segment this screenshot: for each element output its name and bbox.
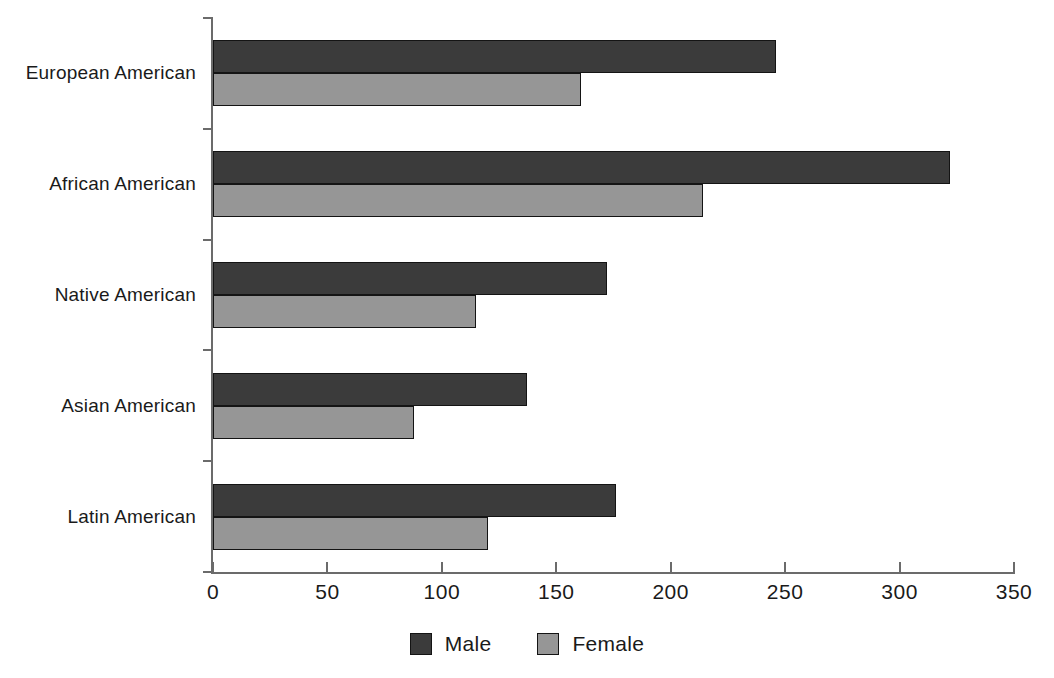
legend-label: Male xyxy=(445,632,492,656)
female-swatch-icon xyxy=(537,633,559,655)
y-axis-tick xyxy=(203,349,213,351)
bar-chart: 050100150200250300350 European AmericanA… xyxy=(0,0,1054,678)
x-axis-tick-label: 0 xyxy=(207,580,219,604)
legend-label: Female xyxy=(572,632,644,656)
y-axis-tick xyxy=(203,460,213,462)
bar-male-european-american xyxy=(213,40,776,73)
bar-male-african-american xyxy=(213,151,950,184)
x-axis-tick-label: 300 xyxy=(881,580,918,604)
chart-legend: MaleFemale xyxy=(0,632,1054,656)
plot-area xyxy=(213,18,1014,572)
legend-item-male: Male xyxy=(410,632,492,656)
x-axis-tick-label: 200 xyxy=(652,580,689,604)
y-axis-category-label: African American xyxy=(49,173,196,195)
x-axis-tick-label: 350 xyxy=(996,580,1033,604)
x-axis-tick-label: 250 xyxy=(767,580,804,604)
bar-female-asian-american xyxy=(213,406,414,439)
bar-female-latin-american xyxy=(213,517,488,550)
y-axis-category-labels: European AmericanAfrican AmericanNative … xyxy=(0,0,196,678)
male-swatch-icon xyxy=(410,633,432,655)
bar-male-latin-american xyxy=(213,484,616,517)
y-axis-category-label: Asian American xyxy=(61,395,196,417)
x-axis-tick-label: 100 xyxy=(424,580,461,604)
y-axis-category-label: European American xyxy=(26,62,196,84)
bar-female-european-american xyxy=(213,73,581,106)
bar-male-asian-american xyxy=(213,373,527,406)
y-axis-category-label: Native American xyxy=(55,284,196,306)
bar-female-native-american xyxy=(213,295,476,328)
y-axis-category-label: Latin American xyxy=(68,506,196,528)
x-axis-tick-label: 150 xyxy=(538,580,575,604)
y-axis-tick xyxy=(203,17,213,19)
bar-female-african-american xyxy=(213,184,703,217)
x-axis-tick-label: 50 xyxy=(315,580,339,604)
x-axis-line xyxy=(213,572,1014,574)
y-axis-tick xyxy=(203,239,213,241)
bar-male-native-american xyxy=(213,262,607,295)
y-axis-tick xyxy=(203,128,213,130)
legend-item-female: Female xyxy=(537,632,644,656)
